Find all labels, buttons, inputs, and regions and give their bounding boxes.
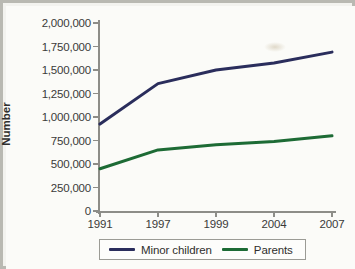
legend-item[interactable]: Minor children [109,244,212,256]
series-line [100,52,332,124]
x-axis-tick [331,211,333,217]
y-axis-tick [93,22,99,24]
y-axis-tick [93,163,99,165]
y-axis-tick [93,69,99,71]
y-axis-tick [93,140,99,142]
y-axis-tick-label: 0 [85,205,91,217]
plot-area [98,23,334,211]
x-axis-tick [157,211,159,217]
y-axis-tick-label: 1,750,000 [42,41,91,53]
y-axis-tick-label: 1,000,000 [42,111,91,123]
series-line [100,136,332,169]
x-axis-tick [99,211,101,217]
legend-item[interactable]: Parents [222,244,293,256]
y-axis-tick-label: 750,000 [51,135,91,147]
y-axis-tick-label: 1,500,000 [42,64,91,76]
series-lines [98,23,334,211]
legend-swatch-icon [109,248,135,251]
y-axis-tick-label: 250,000 [51,182,91,194]
x-axis-tick-label: 1997 [146,218,171,230]
legend-label: Minor children [141,244,212,256]
y-axis-tick [93,93,99,95]
chart-canvas: Number 0250,000500,000750,0001,000,0001,… [6,6,355,269]
y-axis-tick-label: 1,250,000 [42,88,91,100]
legend-label: Parents [254,244,293,256]
x-axis-tick [273,211,275,217]
chart-frame: Number 0250,000500,000750,0001,000,0001,… [0,0,355,269]
y-axis-tick [93,46,99,48]
y-axis-tick [93,187,99,189]
x-axis-tick [215,211,217,217]
x-axis-tick-label: 2004 [262,218,287,230]
y-axis-tick-label: 500,000 [51,158,91,170]
x-axis-tick-label: 1991 [88,218,113,230]
legend-swatch-icon [222,248,248,251]
y-axis-tick [93,210,99,212]
y-axis-labels: 0250,000500,000750,0001,000,0001,250,000… [6,6,91,269]
x-axis-tick-label: 1999 [204,218,229,230]
y-axis-tick-label: 2,000,000 [42,17,91,29]
y-axis-tick [93,116,99,118]
x-axis-tick-label: 2007 [320,218,345,230]
chart-legend: Minor childrenParents [99,239,306,260]
